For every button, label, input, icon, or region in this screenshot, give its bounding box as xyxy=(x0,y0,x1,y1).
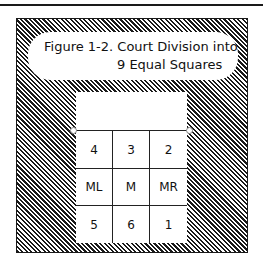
zone-4: 4 xyxy=(76,131,113,169)
court-zone-grid: 4 3 2 ML M MR 5 6 1 xyxy=(76,131,187,243)
zone-3: 3 xyxy=(113,131,150,169)
zone-m: M xyxy=(113,169,150,206)
front-court-area xyxy=(76,92,187,131)
right-post-marker xyxy=(186,127,193,134)
zone-mr: MR xyxy=(150,169,187,206)
figure-caption: Figure 1-2. Court Division into 9 Equal … xyxy=(28,32,238,80)
zone-6: 6 xyxy=(113,206,150,243)
zone-ml: ML xyxy=(76,169,113,206)
zone-1: 1 xyxy=(150,206,187,243)
zone-2: 2 xyxy=(150,131,187,169)
court-diagram: 4 3 2 ML M MR 5 6 1 xyxy=(76,92,187,243)
caption-line-2: 9 Equal Squares xyxy=(117,57,222,72)
caption-line-1: Figure 1-2. Court Division into xyxy=(44,39,238,54)
top-rule xyxy=(0,4,263,6)
zone-5: 5 xyxy=(76,206,113,243)
